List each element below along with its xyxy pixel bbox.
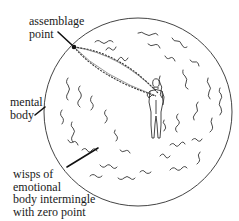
leader-wisps — [67, 148, 98, 167]
label-line: wisps of — [13, 168, 95, 181]
chain-cords — [74, 47, 158, 96]
label-line: mental — [10, 96, 43, 109]
emotional-wisps — [61, 32, 222, 179]
label-line: body intermingle — [13, 193, 95, 206]
label-line: body — [10, 109, 43, 122]
label-mental-body: mental body — [10, 96, 43, 121]
label-line: with zero point — [13, 206, 95, 219]
label-line: assemblage — [29, 15, 84, 28]
label-line: point — [29, 28, 84, 41]
label-assemblage-point: assemblage point — [29, 15, 84, 40]
label-wisps: wisps of emotional body intermingle with… — [13, 168, 95, 218]
